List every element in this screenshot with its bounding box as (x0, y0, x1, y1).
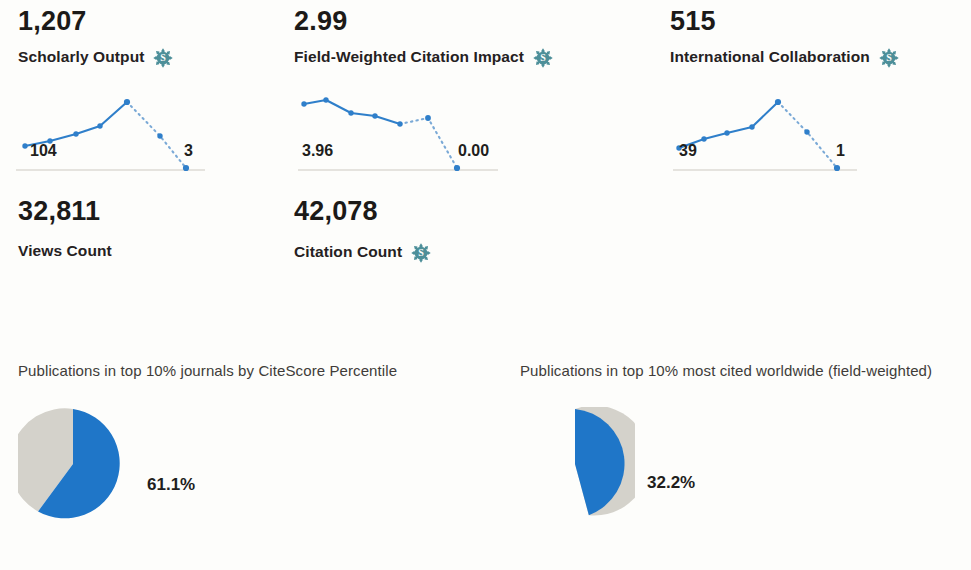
pie-title: Publications in top 10% most cited world… (520, 358, 950, 383)
sparkline-end-value: 0.00 (458, 142, 489, 160)
sparkline-end-value: 1 (836, 142, 845, 160)
scholarly-output-sparkline: 104 3 (8, 86, 213, 178)
sparkline-points (22, 99, 189, 171)
svg-text:S: S (161, 52, 167, 63)
international-collaboration-sparkline: 39 1 (665, 86, 865, 178)
metric-label-row: Citation Count S (294, 242, 431, 262)
pie-block-most-cited-top10: Publications in top 10% most cited world… (520, 358, 950, 525)
pie-block-citescore-top10: Publications in top 10% journals by Cite… (18, 358, 448, 525)
scival-snowflake-icon[interactable]: S (533, 48, 553, 68)
metric-label: Scholarly Output (18, 48, 144, 66)
metric-card-international-collaboration: 515 International Collaboration (670, 8, 899, 67)
svg-text:S: S (540, 52, 546, 63)
pie-row: 32.2% (520, 407, 950, 525)
metric-label-row: International Collaboration S (670, 47, 899, 67)
metric-card-views-count: 32,811 Views Count (18, 198, 112, 260)
metric-label-row: Field-Weighted Citation Impact S (294, 47, 553, 67)
sparkline-svg (290, 86, 505, 178)
sparkline-points (676, 99, 840, 171)
sparkline-dotted-path (127, 102, 186, 168)
sparkline-start-value: 39 (679, 142, 697, 160)
scival-snowflake-icon[interactable]: S (411, 243, 431, 263)
metric-label-row: Views Count (18, 242, 112, 260)
scival-snowflake-icon[interactable]: S (879, 48, 899, 68)
sparkline-svg (8, 86, 213, 178)
metric-card-citation-count: 42,078 Citation Count S (294, 198, 431, 262)
metric-value: 2.99 (294, 8, 553, 35)
scival-metrics-dashboard: 1,207 Scholarly Output S (0, 0, 971, 570)
sparkline-solid-path (25, 102, 127, 146)
metric-value: 1,207 (18, 8, 173, 35)
citescore-top10-pie[interactable] (18, 407, 133, 525)
sparkline-start-value: 104 (30, 142, 57, 160)
metric-value: 515 (670, 8, 899, 35)
sparkline-dotted-path (778, 102, 837, 168)
metric-label: International Collaboration (670, 48, 870, 66)
sparkline-start-value: 3.96 (302, 142, 333, 160)
sparkline-end-value: 3 (184, 142, 193, 160)
pie-percent-label: 32.2% (647, 473, 695, 493)
fwci-sparkline: 3.96 0.00 (290, 86, 505, 178)
metric-label: Views Count (18, 242, 112, 260)
metric-value: 32,811 (18, 198, 112, 225)
metric-label-row: Scholarly Output S (18, 47, 173, 67)
pie-row: 61.1% (18, 407, 448, 525)
metric-value: 42,078 (294, 198, 431, 225)
metric-label: Citation Count (294, 243, 402, 261)
metric-card-scholarly-output: 1,207 Scholarly Output S (18, 8, 173, 67)
sparkline-svg (665, 86, 865, 178)
pie-percent-label: 61.1% (147, 475, 195, 495)
metric-label: Field-Weighted Citation Impact (294, 48, 524, 66)
scival-snowflake-icon[interactable]: S (153, 48, 173, 68)
svg-text:S: S (886, 52, 892, 63)
svg-text:S: S (418, 247, 424, 258)
pie-title: Publications in top 10% journals by Cite… (18, 358, 448, 383)
sparkline-dotted-path (400, 118, 457, 168)
most-cited-top10-pie[interactable] (520, 407, 635, 525)
metric-card-field-weighted-citation-impact: 2.99 Field-Weighted Citation Impact (294, 8, 553, 67)
sparkline-points (301, 97, 460, 171)
